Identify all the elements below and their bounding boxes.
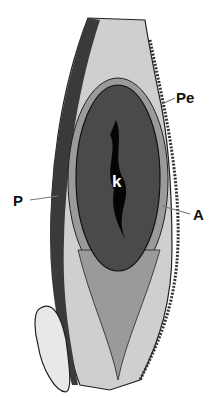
- label-p: P: [13, 193, 23, 208]
- cross-section-illustration: [0, 0, 217, 398]
- label-pe: Pe: [176, 90, 194, 105]
- label-a: A: [193, 207, 204, 222]
- anatomical-diagram: Pe P A k: [0, 0, 217, 398]
- label-k: k: [112, 173, 121, 190]
- pe-arrow: [162, 98, 175, 104]
